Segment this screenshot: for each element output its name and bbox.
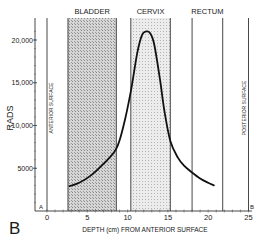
panel-label: B <box>9 219 20 239</box>
x-tick-label: 15 <box>164 213 172 222</box>
cervix-label: CERVIX <box>137 7 165 16</box>
axis-labels: BLADDERCERVIXRECTUMANTERIOR SURFACEPOSTE… <box>5 7 254 234</box>
bladder-label: BLADDER <box>74 7 110 16</box>
dose-depth-chart: BLADDERCERVIXRECTUMANTERIOR SURFACEPOSTE… <box>0 0 260 244</box>
x-tick-label: 0 <box>45 213 49 222</box>
axis-end-label-b: B <box>250 204 254 210</box>
posterior-surface-label: POSTERIOR SURFACE <box>241 80 247 135</box>
y-tick-label: 20,000 <box>12 37 34 44</box>
y-tick-label: 5000 <box>17 165 33 172</box>
x-tick-label: 25 <box>244 213 252 222</box>
x-tick-label: 5 <box>85 213 89 222</box>
rectum-label: RECTUM <box>191 7 223 16</box>
anterior-surface-label: ANTERIOR SURFACE <box>48 82 54 134</box>
organ-regions <box>68 18 223 211</box>
bladder-region <box>68 18 116 211</box>
x-tick-label: 10 <box>123 213 131 222</box>
x-axis-label: DEPTH (cm) FROM ANTERIOR SURFACE <box>82 226 208 234</box>
axis-end-label-a: A <box>39 204 43 210</box>
y-tick-label: 15,000 <box>12 79 34 86</box>
y-axis-label: RADS <box>5 105 15 130</box>
x-tick-label: 20 <box>204 213 212 222</box>
